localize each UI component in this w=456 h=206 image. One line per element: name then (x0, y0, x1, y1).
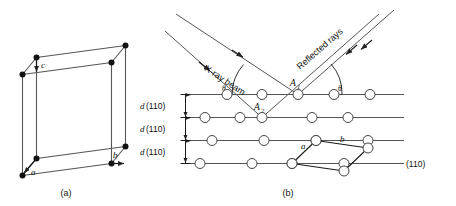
reflected-ray-arrowheads (346, 40, 372, 55)
cell-corner-atom-4 (339, 166, 349, 176)
reflected-rays (262, 10, 394, 118)
bragg-group: X-ray beam Reflected rays θ θ A 1 (140, 10, 425, 198)
cell-corner-atom-1 (311, 136, 321, 146)
axis-label-c: c (41, 60, 45, 70)
lattice-planes (186, 95, 404, 164)
a1-letter: A (289, 78, 296, 88)
bragg-diffraction-figure: c a b (a) (0, 0, 456, 206)
figure-root: c a b (a) (0, 0, 456, 206)
cell-corner-atom-2 (287, 159, 297, 169)
d-symbol-1: d (140, 101, 145, 111)
plane-label-110: (110) (406, 159, 425, 169)
reflected-rays-label: Reflected rays (295, 26, 345, 72)
a2-letter: A (253, 102, 260, 112)
planar-cell-label-b: b (340, 134, 345, 144)
d-spacing-label-1: d (110) (140, 101, 165, 111)
unit-cell-group: c a b (a) (20, 43, 129, 199)
axis-label-b: b (113, 150, 118, 160)
incident-rays (165, 14, 298, 118)
d-hkl-1: (110) (146, 101, 165, 111)
d-symbol-2: d (140, 124, 145, 134)
d-spacing-label-2: d (110) (140, 124, 165, 134)
d-spacing-label-3: d (110) (140, 147, 165, 157)
d-symbol-3: d (140, 147, 145, 157)
reflected-ray-2 (262, 14, 379, 118)
cell-corner-atom-3 (363, 143, 373, 153)
d-hkl-2: (110) (146, 124, 165, 134)
caption-b: (b) (283, 188, 294, 198)
d-spacing-dimension-line (181, 95, 191, 164)
axis-label-a: a (31, 167, 36, 177)
caption-a: (a) (61, 188, 72, 198)
d-hkl-3: (110) (146, 147, 165, 157)
planar-cell-label-a: a (301, 141, 306, 151)
a1-subscript: 1 (297, 83, 300, 90)
